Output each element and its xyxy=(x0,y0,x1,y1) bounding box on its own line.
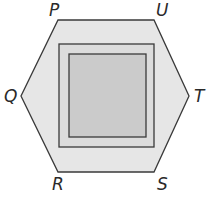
vertex-label-u: U xyxy=(156,0,169,20)
hexagon-diagram: P U T S R Q xyxy=(0,0,213,207)
vertex-label-r: R xyxy=(52,174,64,194)
vertex-label-p: P xyxy=(49,0,60,20)
vertex-label-t: T xyxy=(194,86,206,106)
vertex-label-q: Q xyxy=(4,86,17,106)
inner-square xyxy=(69,54,146,137)
vertex-label-s: S xyxy=(157,174,168,194)
